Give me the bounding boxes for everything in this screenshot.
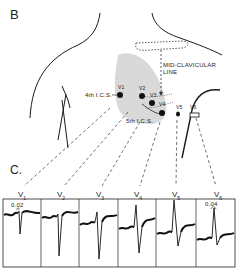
left-arm-outline	[58, 86, 70, 148]
mid-clavicular-label-line2: LINE	[163, 69, 177, 75]
ecg-trace-v4-qrs	[134, 205, 142, 253]
electrode-v5	[176, 112, 180, 117]
ecg-trace-v5-qrs	[172, 200, 181, 246]
panel-c-label: C.	[10, 163, 22, 177]
ecg-trace-v6-qrs	[212, 208, 220, 245]
ecg-lead-label-v3: V3	[96, 190, 104, 201]
right-arm-outline	[182, 90, 220, 158]
leader-v6	[196, 118, 216, 186]
electrode-label-v3: V3	[150, 92, 157, 98]
ecg-trace-v1-qrs	[18, 211, 22, 234]
leader-v4	[140, 122, 160, 186]
electrode-label-v2: V2	[139, 85, 146, 91]
ecg-lead-label-v6: V6	[214, 190, 222, 201]
fifth-ics-label: 5th I.C.S.	[126, 118, 153, 124]
ecg-trace-v6-st	[220, 233, 234, 238]
clavicle-outline	[136, 41, 188, 50]
electrode-label-v6: V6	[190, 104, 197, 110]
leader-v3	[102, 122, 140, 186]
ecg-trace-v3	[80, 222, 95, 225]
ecg-traces	[4, 200, 234, 259]
leader-lines	[24, 108, 216, 186]
ecg-trace-v5-st	[181, 224, 195, 232]
ecg-trace-v1-st	[22, 211, 40, 213]
electrode-v6	[190, 113, 199, 117]
electrode-label-v4: V4	[159, 101, 166, 107]
precordial-lead-diagram	[0, 0, 236, 276]
leader-v5	[176, 120, 177, 186]
ecg-annotation-v6: 0.04	[205, 201, 217, 207]
ecg-trace-v1	[4, 213, 18, 216]
electrode-v1	[117, 92, 123, 98]
electrode-v2	[139, 93, 145, 99]
ecg-lead-label-v2: V2	[57, 190, 65, 201]
electrode-v4	[159, 110, 165, 116]
electrode-label-v1: V1	[118, 84, 125, 90]
panel-b-label: B	[10, 7, 19, 22]
electrode-v3	[149, 100, 155, 106]
ecg-trace-v4	[119, 227, 134, 229]
annotation-bracket-v1	[17, 208, 19, 210]
leader-v1	[24, 108, 110, 186]
mid-clavicular-label: MID-CLAVICULAR	[163, 62, 216, 68]
ecg-trace-v2-st	[62, 212, 78, 216]
ecg-trace-v6	[197, 238, 212, 240]
fourth-ics-label: 4th I.C.S.	[85, 92, 112, 98]
ecg-trace-v3-qrs	[95, 212, 102, 259]
ecg-lead-label-v4: V4	[134, 190, 142, 201]
ecg-strip-frame	[3, 199, 235, 267]
ecg-trace-v2	[42, 216, 57, 218]
ecg-trace-v2-qrs	[57, 214, 62, 256]
ecg-trace-v5	[157, 232, 172, 234]
annotation-bracket-v6	[211, 207, 216, 209]
leader-v2	[64, 112, 128, 186]
right-shoulder-outline	[152, 13, 222, 55]
ecg-trace-v4-st	[142, 218, 155, 227]
ecg-lead-label-v1: V1	[18, 190, 26, 201]
ecg-trace-v3-st	[102, 215, 117, 222]
ecg-lead-label-v5: V5	[172, 190, 180, 201]
electrode-label-v5: V5	[176, 104, 183, 110]
ecg-annotation-v1: 0.02	[11, 202, 23, 208]
